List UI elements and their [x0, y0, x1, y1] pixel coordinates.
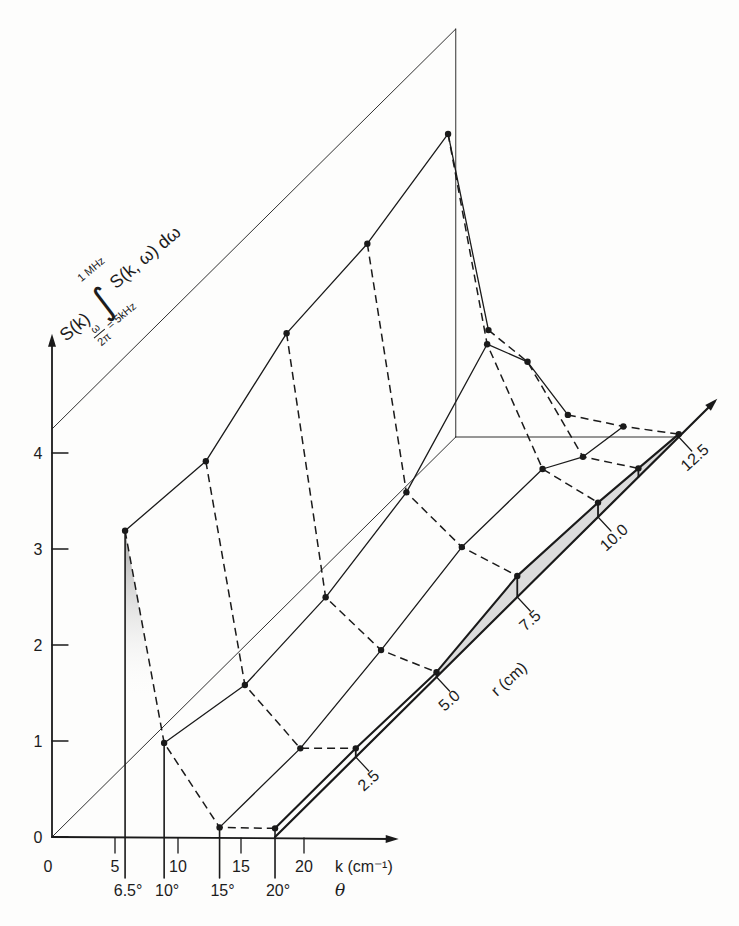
shaded-regions: [125, 434, 679, 700]
data-point: [524, 359, 530, 365]
ridge-line-theta-15°: [220, 426, 624, 827]
data-point: [403, 489, 409, 495]
r-tick-label: 7.5: [516, 607, 544, 635]
data-point: [272, 825, 278, 831]
data-point: [620, 423, 626, 429]
data-point: [322, 594, 328, 600]
k-tick-label: 20: [295, 858, 313, 875]
k-axis-title: k (cm⁻¹): [335, 858, 393, 875]
theta-axis-title: θ: [335, 880, 345, 900]
theta-tick-label: 15°: [210, 882, 234, 899]
floor-diagonal-line: [52, 437, 456, 837]
data-point: [459, 544, 465, 550]
y-tick-label: 0: [34, 829, 43, 846]
data-point: [565, 412, 571, 418]
r-tick-mark: [356, 757, 369, 771]
data-point: [433, 669, 439, 675]
data-point: [484, 341, 490, 347]
k-tick-label: 15: [232, 858, 250, 875]
r-axis-title: r (cm): [488, 659, 530, 700]
y-tick-label: 3: [34, 541, 43, 558]
r-tick-mark: [679, 437, 692, 451]
y-title-integrand: S(k, ω) dω: [106, 222, 185, 293]
data-point: [216, 824, 222, 830]
data-point: [676, 431, 682, 437]
r-tick-mark: [598, 517, 611, 531]
y-axis-arrow-icon: [48, 334, 56, 347]
k-tick-label: 5: [111, 858, 120, 875]
data-lines: [125, 134, 679, 828]
data-point: [353, 745, 359, 751]
cross-line-r-5: [287, 333, 437, 672]
data-point: [161, 740, 167, 746]
data-point: [203, 458, 209, 464]
y-tick-label: 4: [34, 445, 43, 462]
k-axis-line: [52, 837, 395, 839]
data-point: [122, 528, 128, 534]
back-plane-frame: [52, 29, 679, 837]
r-tick-label: 12.5: [677, 441, 712, 475]
k-axis-arrow-icon: [386, 835, 399, 843]
data-point: [635, 465, 641, 471]
ridge-line-theta-6.5°: [125, 134, 488, 531]
r-tick-label: 10.0: [597, 521, 632, 555]
back-wall-top-line: [52, 29, 456, 429]
r-tick-label: 5.0: [435, 687, 463, 715]
data-point: [283, 330, 289, 336]
r-tick-label: 2.5: [354, 767, 382, 795]
data-point: [242, 682, 248, 688]
data-point: [378, 647, 384, 653]
data-point: [514, 573, 520, 579]
chart-3d-figure: 0123405101520k (cm⁻¹)6.5°10°15°20°θ2.55.…: [0, 0, 739, 926]
data-point: [485, 327, 491, 333]
theta-tick-label: 20°: [266, 882, 290, 899]
theta-tick-label: 6.5°: [114, 882, 143, 899]
theta-tick-label: 10°: [155, 882, 179, 899]
data-point: [297, 745, 303, 751]
integral-upper-limit: 1 MHz: [75, 254, 107, 284]
data-point: [364, 241, 370, 247]
k-tick-label: 0: [44, 858, 53, 875]
r-tick-mark: [517, 597, 530, 611]
y-axis-title: S(k)∫1 MHzω2π= 5kHzS(k, ω) dω: [36, 205, 205, 363]
axes: [48, 334, 717, 878]
k-tick-label: 10: [169, 858, 187, 875]
cross-line-r-10: [448, 134, 598, 503]
data-points: [122, 131, 682, 832]
data-point: [445, 131, 451, 137]
data-point: [580, 454, 586, 460]
y-tick-label: 1: [34, 733, 43, 750]
data-point: [539, 466, 545, 472]
data-point: [595, 499, 601, 505]
y-tick-label: 2: [34, 637, 43, 654]
r-tick-mark: [437, 677, 450, 691]
r-axis-line: [275, 402, 714, 837]
cross-line-r-7.5: [367, 244, 517, 576]
